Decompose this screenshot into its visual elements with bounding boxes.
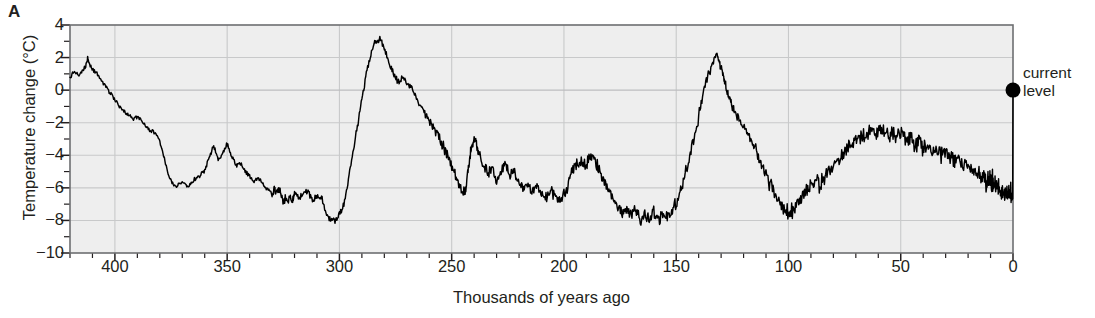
x-tick-label: 400 bbox=[101, 258, 129, 275]
x-tick-label: 350 bbox=[213, 258, 241, 275]
x-tick-label: 200 bbox=[550, 258, 578, 275]
x-tick-label: 50 bbox=[892, 258, 910, 275]
annotation-line-2: level bbox=[1023, 82, 1071, 100]
current-level-annotation: current level bbox=[1023, 64, 1071, 101]
x-axis-tick-labels: 400350300250200150100500 bbox=[0, 0, 1095, 318]
x-tick-label: 100 bbox=[775, 258, 803, 275]
x-tick-label: 250 bbox=[438, 258, 466, 275]
figure-panel-a: A Temperature change (°C) 420−2−4−6−8−10… bbox=[0, 0, 1095, 318]
x-tick-label: 0 bbox=[1008, 258, 1017, 275]
annotation-line-1: current bbox=[1023, 64, 1071, 82]
x-axis-title: Thousands of years ago bbox=[70, 288, 1013, 307]
x-tick-label: 150 bbox=[662, 258, 690, 275]
x-tick-label: 300 bbox=[326, 258, 354, 275]
